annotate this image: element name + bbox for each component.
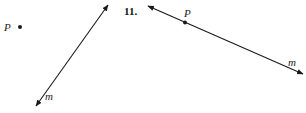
point-p-dot bbox=[183, 21, 187, 25]
problem-number: 11. bbox=[124, 5, 137, 17]
figure-left: P m bbox=[3, 5, 108, 106]
point-p-dot bbox=[18, 25, 22, 29]
point-p-label: P bbox=[183, 7, 191, 19]
point-p-label: P bbox=[3, 21, 11, 33]
line-m-label: m bbox=[288, 56, 296, 68]
line-m-label: m bbox=[45, 90, 53, 102]
line-m bbox=[148, 6, 303, 74]
figure-right: 11. P m bbox=[124, 5, 303, 74]
geometry-figures: P m 11. P m bbox=[0, 0, 306, 113]
